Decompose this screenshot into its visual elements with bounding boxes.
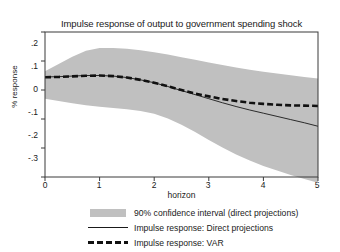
legend-label: Impulse response: VAR: [134, 238, 224, 248]
chart-legend: 90% confidence interval (direct projecti…: [88, 206, 298, 249]
legend-dashed-line-icon: [88, 237, 128, 248]
legend-solid-line-icon: [88, 222, 128, 233]
impulse-response-figure: Impulse response of output to government…: [0, 0, 340, 252]
legend-label: Impulse response: Direct projections: [134, 223, 273, 233]
legend-item-var: Impulse response: VAR: [88, 236, 298, 249]
legend-swatch-icon: [88, 207, 128, 218]
confidence-band-group: [45, 48, 318, 183]
legend-item-confidence-interval: 90% confidence interval (direct projecti…: [88, 206, 298, 219]
confidence-band: [45, 48, 318, 183]
legend-label: 90% confidence interval (direct projecti…: [134, 208, 298, 218]
legend-item-direct-projections: Impulse response: Direct projections: [88, 221, 298, 234]
